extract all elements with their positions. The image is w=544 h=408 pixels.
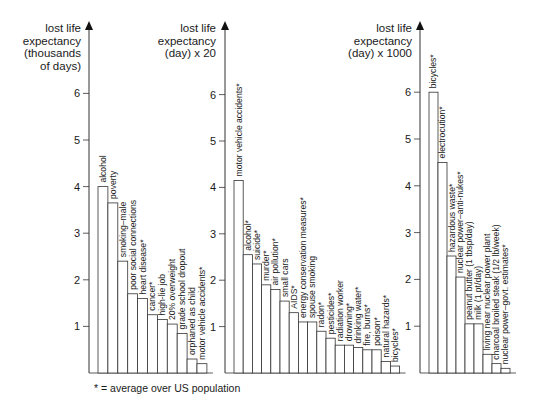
bar-label: electrocution* [438,106,448,159]
y-tick-label: 2 [405,273,411,285]
risk-charts: lost lifeexpectancy(thousandsof days)123… [0,0,544,408]
y-tick-label: 2 [210,274,216,286]
bar-label: bicycles* [429,54,439,89]
bar [465,324,474,373]
bar [344,345,353,373]
bar-label: heart disease* [138,239,148,295]
y-tick-label: 5 [210,135,216,147]
axis-arrow-icon [221,21,229,30]
bar [326,338,335,373]
bar [128,294,138,373]
y-axis-label: (day) x 1000 [348,47,412,59]
y-tick-label: 2 [74,274,80,286]
bar [390,366,399,373]
bar [501,368,510,373]
bar [280,301,289,373]
y-tick-label: 6 [405,86,411,98]
bar [335,345,344,373]
y-axis-label: lost life [180,22,216,34]
axis-arrow-icon [416,21,424,30]
bar [98,187,108,373]
y-tick-label: 3 [210,228,216,240]
bar-label: motor vehicle accidents* [234,83,244,177]
y-tick-label: 3 [74,227,80,239]
bar-label: cancer* [147,281,157,311]
bar-label: motor vehicle accidents* [197,266,207,360]
y-axis-label: expectancy [158,35,216,47]
bar [262,285,271,373]
bar [354,347,363,373]
y-tick-label: 4 [405,180,411,192]
y-tick-label: 1 [405,320,411,332]
bar-label: nuclear power–govt. estimates* [501,244,511,365]
bar [317,331,326,373]
bar [177,333,187,373]
bar-label: high-lie job [157,274,167,316]
bar-label: 20% overweight [167,258,177,320]
bar [197,364,207,373]
bar-label: poor social connections [128,200,138,290]
y-tick-label: 5 [74,134,80,146]
y-tick-label: 1 [210,321,216,333]
bar-label: alcohol [98,155,108,182]
bar-label: poverty [108,170,118,199]
y-tick-label: 6 [210,89,216,101]
bar-label: smoking–male [118,202,128,258]
footnote: * = average over US population [94,382,240,394]
y-tick-label: 1 [74,320,80,332]
y-axis-label: lost life [376,22,412,34]
y-tick-label: 4 [74,181,80,193]
y-tick-label: 4 [210,181,216,193]
bar [187,359,197,373]
bar [108,203,118,373]
axis-arrow-icon [85,21,93,30]
bar [243,255,252,373]
y-axis-label: expectancy [23,35,81,47]
bar [381,361,390,373]
y-tick-label: 3 [405,227,411,239]
y-tick-label: 6 [74,87,80,99]
bar-label: grade school dropout [177,248,187,329]
bar [271,289,280,373]
y-axis-label: expectancy [354,35,412,47]
bar-label: bicycles* [390,327,400,362]
y-axis-label: lost life [45,22,81,34]
bar [167,324,177,373]
y-axis-label: of days) [40,60,81,72]
bar [118,261,128,373]
bar [157,319,167,373]
bar [363,350,372,373]
y-tick-label: 5 [405,133,411,145]
bar-label: orphaned as child [187,287,197,355]
y-axis-label: (thousands [24,47,81,59]
bar [234,180,243,373]
bar [298,322,307,373]
bar [308,322,317,373]
bar [138,298,148,373]
y-axis-label: (day) x 20 [165,47,216,59]
bar [289,313,298,373]
bar [148,315,158,373]
